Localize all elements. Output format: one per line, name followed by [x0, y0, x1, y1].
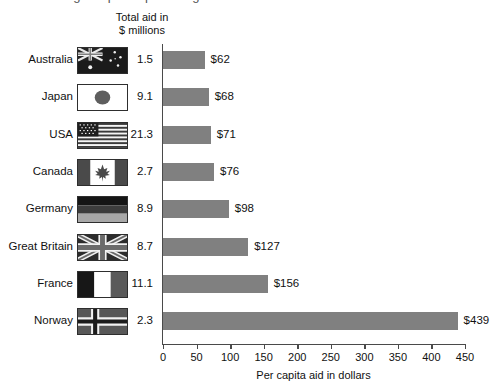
x-axis-tick	[465, 344, 466, 349]
x-axis-tick	[331, 344, 332, 349]
total-aid-column-header: Total aid in $ millions	[104, 11, 180, 37]
x-axis-tick	[230, 344, 231, 349]
bar	[163, 312, 458, 330]
total-aid-value: 1.5	[110, 53, 153, 65]
bar	[163, 51, 205, 69]
cropped-title-text: Figure: per capita aid given	[62, 0, 224, 3]
x-axis-tick	[163, 344, 164, 349]
country-label: USA	[0, 128, 73, 140]
total-aid-header-line2: $ millions	[104, 24, 180, 37]
bar-value-label: $127	[254, 240, 280, 252]
country-label: Great Britain	[0, 240, 73, 252]
total-aid-value: 2.3	[110, 314, 153, 326]
x-axis-tick	[197, 344, 198, 349]
bar-value-label: $76	[220, 165, 239, 177]
chart-row: Norway 2.3$439	[0, 307, 490, 337]
chart-row: Great Britain 8.7$127	[0, 233, 490, 263]
x-axis-line	[162, 344, 465, 345]
bar-chart-figure: Figure: per capita aid given Total aid i…	[0, 0, 490, 392]
bar	[163, 275, 268, 293]
total-aid-value: 9.1	[110, 90, 153, 102]
chart-row: Australia 1.5$62	[0, 46, 490, 76]
country-label: Japan	[0, 90, 73, 102]
chart-row: Japan 9.1$68	[0, 83, 490, 113]
x-axis-title: Per capita aid in dollars	[162, 369, 465, 381]
bar	[163, 200, 229, 218]
country-label: Canada	[0, 165, 73, 177]
cropped-title-sliver: Figure: per capita aid given	[0, 0, 490, 7]
country-label: Australia	[0, 53, 73, 65]
country-label: Germany	[0, 202, 73, 214]
x-axis-tick	[431, 344, 432, 349]
x-axis-tick	[398, 344, 399, 349]
x-axis-tick	[264, 344, 265, 349]
bar-value-label: $156	[274, 277, 300, 289]
total-aid-value: 8.9	[110, 202, 153, 214]
bar	[163, 238, 248, 256]
total-aid-value: 21.3	[110, 128, 153, 140]
bar-value-label: $68	[215, 90, 234, 102]
bar	[163, 126, 211, 144]
bar-value-label: $439	[464, 314, 490, 326]
x-axis-tick-label: 450	[445, 351, 485, 363]
total-aid-value: 2.7	[110, 165, 153, 177]
chart-row: Canada 2.7$76	[0, 158, 490, 188]
total-aid-header-line1: Total aid in	[104, 11, 180, 24]
total-aid-value: 8.7	[110, 240, 153, 252]
chart-row: USA 21.3$71	[0, 121, 490, 151]
x-axis-tick	[364, 344, 365, 349]
country-label: France	[0, 277, 73, 289]
bar	[163, 163, 214, 181]
bar-value-label: $71	[217, 128, 236, 140]
country-label: Norway	[0, 314, 73, 326]
total-aid-value: 11.1	[110, 277, 153, 289]
bar-value-label: $98	[235, 202, 254, 214]
chart-row: Germany 8.9$98	[0, 195, 490, 225]
bar-value-label: $62	[211, 53, 230, 65]
bar	[163, 88, 209, 106]
chart-row: France 11.1$156	[0, 270, 490, 300]
x-axis-tick	[297, 344, 298, 349]
